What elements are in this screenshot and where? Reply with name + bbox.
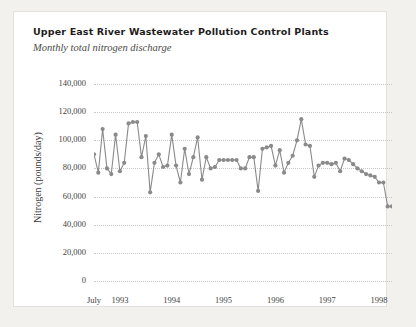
data-point bbox=[299, 117, 303, 121]
data-point bbox=[204, 155, 208, 159]
data-point bbox=[135, 120, 139, 124]
data-point bbox=[209, 166, 213, 170]
data-point bbox=[321, 161, 325, 165]
data-point bbox=[260, 147, 264, 151]
data-point bbox=[170, 133, 174, 137]
data-point bbox=[390, 204, 392, 208]
data-point bbox=[373, 175, 377, 179]
data-point bbox=[351, 162, 355, 166]
data-point bbox=[342, 156, 346, 160]
data-point bbox=[161, 165, 165, 169]
data-point bbox=[213, 165, 217, 169]
data-point bbox=[308, 144, 312, 148]
series-line bbox=[94, 84, 392, 281]
data-point bbox=[338, 169, 342, 173]
data-point bbox=[230, 158, 234, 162]
data-point bbox=[94, 152, 96, 156]
data-point bbox=[265, 145, 269, 149]
data-point bbox=[386, 204, 390, 208]
data-point bbox=[157, 152, 161, 156]
y-axis-tick-label: 40,000 bbox=[26, 219, 86, 229]
data-point bbox=[291, 154, 295, 158]
data-point bbox=[347, 158, 351, 162]
data-point bbox=[122, 161, 126, 165]
data-point bbox=[364, 172, 368, 176]
data-point bbox=[325, 161, 329, 165]
data-point bbox=[312, 175, 316, 179]
data-point bbox=[295, 138, 299, 142]
data-point bbox=[178, 180, 182, 184]
data-point bbox=[96, 171, 100, 175]
chart-title: Upper East River Wastewater Pollution Co… bbox=[33, 26, 329, 37]
y-axis-tick-label: 20,000 bbox=[26, 247, 86, 257]
y-axis-tick-label: 0 bbox=[26, 275, 86, 285]
data-point bbox=[355, 166, 359, 170]
data-point bbox=[139, 155, 143, 159]
data-point bbox=[304, 142, 308, 146]
data-point bbox=[286, 161, 290, 165]
data-point bbox=[200, 178, 204, 182]
data-point bbox=[243, 166, 247, 170]
data-point bbox=[165, 164, 169, 168]
gridline bbox=[94, 281, 392, 282]
x-axis-tick-label: 1994 bbox=[163, 295, 180, 305]
data-point bbox=[187, 172, 191, 176]
data-point bbox=[113, 133, 117, 137]
y-axis-tick-label: 120,000 bbox=[26, 106, 86, 116]
y-axis-tick-label: 80,000 bbox=[26, 162, 86, 172]
data-point bbox=[196, 135, 200, 139]
data-point bbox=[226, 158, 230, 162]
plot-area bbox=[94, 84, 392, 281]
y-axis-ticks: 140,000120,000100,00080,00060,00040,0002… bbox=[22, 84, 86, 281]
data-point bbox=[381, 180, 385, 184]
data-point bbox=[217, 158, 221, 162]
data-point bbox=[273, 164, 277, 168]
data-point bbox=[360, 169, 364, 173]
data-point bbox=[221, 158, 225, 162]
y-axis-tick-label: 100,000 bbox=[26, 134, 86, 144]
data-point bbox=[368, 173, 372, 177]
y-axis-tick-label: 140,000 bbox=[26, 78, 86, 88]
data-point bbox=[152, 161, 156, 165]
data-point bbox=[377, 180, 381, 184]
data-point bbox=[252, 155, 256, 159]
data-point bbox=[329, 162, 333, 166]
data-point bbox=[334, 161, 338, 165]
x-axis-tick-label: 1998 bbox=[371, 295, 388, 305]
data-point bbox=[144, 134, 148, 138]
x-axis-tick-label: 1996 bbox=[267, 295, 284, 305]
x-axis-tick-label: 1995 bbox=[215, 295, 232, 305]
data-point bbox=[282, 171, 286, 175]
data-point bbox=[148, 190, 152, 194]
chart-card: Upper East River Wastewater Pollution Co… bbox=[13, 11, 387, 307]
data-point bbox=[191, 155, 195, 159]
data-point bbox=[234, 158, 238, 162]
x-axis-tick-label: 1993 bbox=[111, 295, 128, 305]
data-point bbox=[183, 147, 187, 151]
y-axis-tick-label: 60,000 bbox=[26, 191, 86, 201]
data-point bbox=[247, 155, 251, 159]
x-axis-tick-label: July bbox=[87, 295, 101, 305]
data-point bbox=[278, 148, 282, 152]
data-point bbox=[126, 121, 130, 125]
data-point bbox=[269, 144, 273, 148]
x-axis-ticks: July199319941995199619971998 bbox=[59, 295, 399, 309]
data-point bbox=[105, 166, 109, 170]
data-point bbox=[239, 166, 243, 170]
data-point bbox=[101, 127, 105, 131]
data-point bbox=[131, 120, 135, 124]
chart-subtitle: Monthly total nitrogen discharge bbox=[33, 42, 171, 53]
data-point bbox=[174, 164, 178, 168]
data-point bbox=[256, 189, 260, 193]
data-point bbox=[109, 172, 113, 176]
x-axis-tick-label: 1997 bbox=[319, 295, 336, 305]
data-point bbox=[118, 169, 122, 173]
data-point bbox=[316, 164, 320, 168]
